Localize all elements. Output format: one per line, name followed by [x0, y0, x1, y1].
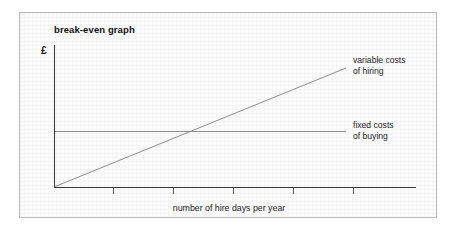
series-annotation-fixed-costs: fixed costs of buying — [353, 120, 394, 142]
series-annotation-variable-costs-line2: of hiring — [353, 66, 406, 77]
series-annotation-variable-costs-line1: variable costs — [353, 55, 406, 66]
chart-panel: break-even graph £ variable costs of hi — [19, 12, 437, 218]
series-annotation-fixed-costs-line1: fixed costs — [353, 120, 394, 131]
series-line-variable-costs — [54, 68, 346, 187]
screenshot-root: break-even graph £ variable costs of hi — [0, 0, 455, 230]
series-annotation-variable-costs: variable costs of hiring — [353, 55, 406, 77]
x-axis-ticks — [114, 188, 354, 194]
plot-area — [20, 13, 438, 219]
x-axis-label: number of hire days per year — [20, 203, 438, 213]
series-annotation-fixed-costs-line2: of buying — [353, 131, 394, 142]
